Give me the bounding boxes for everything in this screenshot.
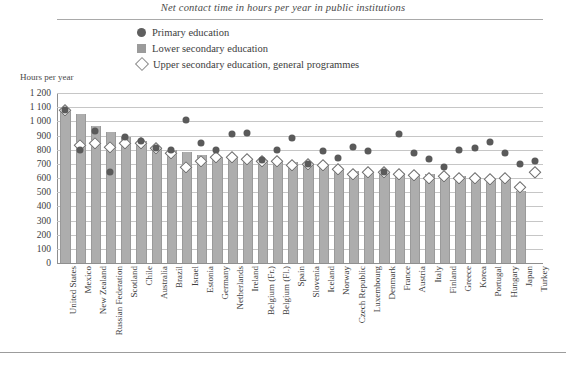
- x-axis-tick-label: Korea: [478, 266, 488, 288]
- legend-item-upper-secondary: Upper secondary education, general progr…: [137, 57, 359, 71]
- gridline: [57, 263, 543, 264]
- upper-secondary-education-marker-icon: [135, 57, 149, 71]
- x-axis-tick-label: Portugal: [493, 266, 503, 297]
- bar-lower-secondary: [152, 148, 162, 263]
- x-axis-tick-label: Australia: [159, 266, 169, 299]
- chart-legend: Primary education Lower secondary educat…: [137, 25, 359, 71]
- bar-lower-secondary: [243, 159, 253, 263]
- x-axis-tick-label: United States: [68, 266, 78, 314]
- legend-item-lower-secondary: Lower secondary education: [137, 41, 359, 55]
- bar-lower-secondary: [303, 164, 313, 263]
- bar-lower-secondary: [136, 141, 146, 263]
- footer-rule: [0, 352, 566, 353]
- y-axis-tick-label: 1 000: [5, 116, 51, 126]
- marker-primary: [532, 158, 539, 165]
- marker-primary: [76, 146, 83, 153]
- marker-primary: [426, 155, 433, 162]
- bar-lower-secondary: [501, 178, 511, 263]
- marker-primary: [61, 107, 68, 114]
- bar-lower-secondary: [395, 173, 405, 263]
- plot-area: 1 2001 1001 0009008007006005004003002001…: [57, 93, 543, 263]
- marker-primary: [259, 157, 266, 164]
- marker-primary: [502, 149, 509, 156]
- x-axis-tick-label: Hungary: [509, 266, 519, 298]
- bar-lower-secondary: [425, 174, 435, 263]
- marker-primary: [183, 116, 190, 123]
- x-axis-labels: United StatesMexicoNew ZealandRussian Fe…: [57, 266, 543, 366]
- bar-lower-secondary: [273, 161, 283, 263]
- bar-lower-secondary: [121, 137, 131, 263]
- x-axis-tick-label: Czech Republic: [357, 266, 367, 323]
- y-axis-tick-label: 800: [5, 145, 51, 155]
- marker-primary: [289, 135, 296, 142]
- marker-primary: [228, 131, 235, 138]
- header-rule: [57, 19, 543, 20]
- y-axis-tick-label: 400: [5, 201, 51, 211]
- y-axis-tick-label: 1 200: [5, 88, 51, 98]
- marker-upper-secondary: [529, 166, 541, 178]
- marker-primary: [486, 138, 493, 145]
- x-axis-tick-label: Turkey: [539, 266, 549, 292]
- y-axis-tick-label: 900: [5, 131, 51, 141]
- marker-primary: [91, 127, 98, 134]
- marker-primary: [122, 133, 129, 140]
- x-axis-tick-label: Russian Federation: [114, 266, 124, 335]
- x-axis-tick-label: Chile: [144, 266, 154, 286]
- marker-primary: [334, 155, 341, 162]
- marker-primary: [167, 146, 174, 153]
- x-axis-tick-label: Ireland: [250, 266, 260, 291]
- x-axis-tick-label: Japan: [524, 266, 534, 287]
- marker-primary: [365, 148, 372, 155]
- marker-primary: [456, 146, 463, 153]
- lower-secondary-education-marker-icon: [137, 44, 146, 53]
- marker-primary: [517, 160, 524, 167]
- gridline: [57, 121, 543, 122]
- primary-education-marker-icon: [137, 28, 146, 37]
- bar-lower-secondary: [212, 157, 222, 263]
- legend-label-upper-secondary: Upper secondary education, general progr…: [153, 59, 359, 70]
- marker-primary: [441, 163, 448, 170]
- marker-primary: [410, 149, 417, 156]
- y-axis-tick-label: 500: [5, 187, 51, 197]
- legend-item-primary: Primary education: [137, 25, 359, 39]
- x-axis-tick-label: Slovenia: [311, 266, 321, 298]
- x-axis-tick-label: Finland: [448, 266, 458, 294]
- x-axis-tick-label: Iceland: [326, 266, 336, 292]
- y-axis-tick-label: 700: [5, 159, 51, 169]
- gridline: [57, 107, 543, 108]
- legend-label-lower-secondary: Lower secondary education: [152, 43, 268, 54]
- y-axis-tick-label: 200: [5, 230, 51, 240]
- y-axis-tick-label: 600: [5, 173, 51, 183]
- bar-lower-secondary: [349, 171, 359, 263]
- marker-primary: [395, 131, 402, 138]
- marker-primary: [304, 160, 311, 167]
- x-axis-tick-label: Austria: [417, 266, 427, 293]
- marker-primary: [152, 144, 159, 151]
- legend-label-primary: Primary education: [152, 27, 229, 38]
- x-axis-tick-label: France: [402, 266, 412, 291]
- marker-primary: [274, 146, 281, 153]
- x-axis-tick-label: Estonia: [205, 266, 215, 293]
- x-axis-tick-label: Greece: [463, 266, 473, 291]
- marker-primary: [137, 138, 144, 145]
- chart-title: Net contact time in hours per year in pu…: [0, 2, 566, 13]
- x-axis-tick-label: Mexico: [83, 266, 93, 294]
- marker-primary: [213, 146, 220, 153]
- x-axis-tick-label: Denmark: [387, 266, 397, 300]
- x-axis-tick-label: Israel: [190, 266, 200, 286]
- bar-lower-secondary: [471, 177, 481, 263]
- x-axis-tick-label: Netherlands: [235, 266, 245, 309]
- marker-primary: [198, 140, 205, 147]
- x-axis-tick-label: Norway: [341, 266, 351, 295]
- bar-lower-secondary: [410, 174, 420, 263]
- x-axis-tick-label: Belgium (Fl.): [281, 266, 291, 315]
- x-axis-tick-label: Spain: [296, 266, 306, 287]
- bar-lower-secondary: [455, 176, 465, 263]
- bar-lower-secondary: [334, 169, 344, 263]
- bar-lower-secondary: [364, 172, 374, 263]
- y-axis-tick-label: 1 100: [5, 102, 51, 112]
- bar-lower-secondary: [379, 172, 389, 263]
- x-axis-tick-label: New Zealand: [98, 266, 108, 314]
- bar-lower-secondary: [516, 191, 526, 263]
- chart-figure: Net contact time in hours per year in pu…: [0, 0, 566, 374]
